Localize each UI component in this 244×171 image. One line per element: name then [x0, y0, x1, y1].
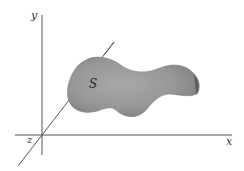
z-axis-upper: [104, 42, 114, 55]
surface-s: [67, 57, 199, 117]
y-axis-label: y: [31, 10, 37, 21]
surface-label: S: [89, 78, 97, 90]
z-axis-label: z: [27, 135, 32, 145]
coordinate-diagram: [0, 0, 244, 171]
x-axis-label: x: [226, 136, 232, 147]
